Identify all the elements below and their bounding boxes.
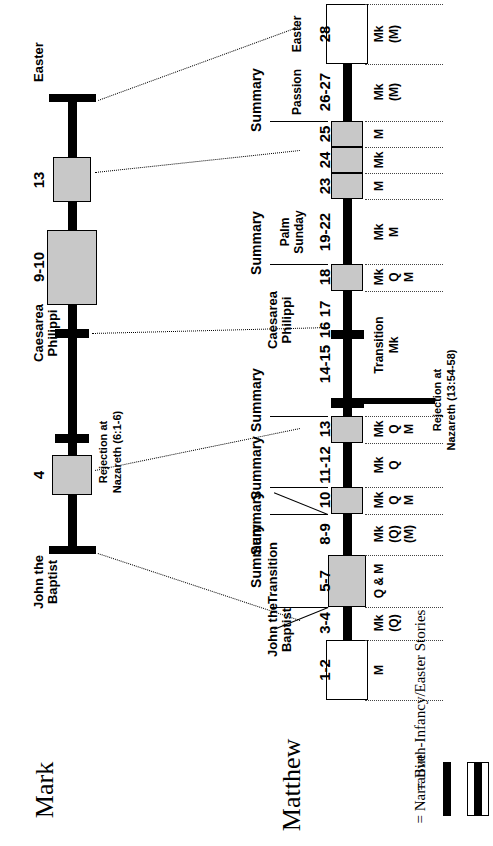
- connector-easter: [98, 26, 300, 101]
- mark-label-easter: Easter: [32, 42, 45, 82]
- matthew-chapter-label-19-22: 19-22: [317, 213, 332, 251]
- matthew-source-23-M: M: [373, 181, 385, 191]
- mark-label-john-the-baptist-line2: Baptist: [46, 560, 59, 604]
- matthew-summary-leader: [270, 607, 328, 608]
- matthew-source-19-22-Mk: Mk: [373, 224, 385, 241]
- mark-chapter-label-9-10: 9-10: [31, 252, 46, 282]
- matthew-row-divider: [365, 64, 443, 65]
- matthew-row-divider: [365, 700, 443, 701]
- matthew-label-palm-sunday-line1: Palm: [279, 218, 291, 247]
- matthew-box-chapter-18: [331, 264, 363, 291]
- matthew-source-8-9-(Q): (Q): [388, 525, 400, 542]
- matthew-row-divider: [365, 514, 443, 515]
- mark-label-john-the-baptist-line1: John the: [32, 555, 45, 609]
- matthew-source-8-9-Mk: Mk: [373, 526, 385, 543]
- matthew-row-divider: [365, 487, 443, 488]
- matthew-label-passion: Passion: [291, 69, 303, 115]
- mark-marker-rejection-at-nazareth: [55, 434, 89, 443]
- matthew-chapter-label-3-4: 3-4: [317, 612, 332, 634]
- connector-caesarea-philippi: [92, 327, 330, 334]
- matthew-title: Matthew: [279, 739, 305, 831]
- matthew-summary-leader: [270, 487, 328, 488]
- matthew-summary-leader: [270, 121, 328, 122]
- matthew-chapter-label-26-27: 26-27: [317, 73, 332, 111]
- matthew-source-10-Q: Q: [388, 495, 400, 504]
- legend-swatch-narrative: [443, 762, 451, 816]
- mark-chapter-label-13: 13: [31, 172, 46, 189]
- matthew-label-easter: Easter: [291, 16, 303, 53]
- matthew-chapter-label-24: 24: [317, 152, 332, 169]
- matthew-source-3-4-Mk: Mk: [373, 615, 385, 632]
- matthew-box-chapter-5-7: [328, 555, 366, 607]
- matthew-label-palm-sunday-line2: Sunday: [293, 210, 305, 253]
- mark-box-chapter-4: [52, 455, 92, 495]
- matthew-chapter-label-28: 28: [317, 26, 332, 43]
- matthew-summary-leader: [270, 514, 328, 515]
- mark-annotation-rejection-line1: Rejection at: [98, 421, 109, 483]
- connector-mark-13: [95, 150, 300, 173]
- connector-mark-4: [95, 428, 300, 471]
- matthew-source-26-27-Mk: Mk: [373, 84, 385, 101]
- matthew-row-divider: [365, 147, 443, 148]
- matthew-source-10-Mk: Mk: [373, 492, 385, 509]
- mark-chapter-label-4: 4: [31, 471, 46, 479]
- matthew-chapter-label-14-15: 14-15: [317, 345, 332, 383]
- matthew-label-caesarea-philippi-line1: Caesarea: [266, 291, 279, 349]
- matthew-source-3-4-(Q): (Q): [388, 614, 400, 631]
- legend-swatch-birth-infancy-bar: [474, 762, 482, 816]
- matthew-summary-label-1: Summary: [249, 68, 263, 132]
- matthew-row-divider: [365, 199, 443, 200]
- matthew-summary-leader: [270, 264, 328, 265]
- matthew-source-11-12-Q: Q: [388, 460, 400, 469]
- matthew-row-divider: [365, 640, 443, 641]
- matthew-source-13-M: M: [403, 424, 415, 434]
- mark-title: Mark: [32, 762, 58, 818]
- matthew-source-13-Q: Q: [388, 424, 400, 433]
- matthew-label-transition-1: Transition: [266, 542, 279, 604]
- matthew-box-chapter-23: [331, 173, 363, 199]
- matthew-label-transition-line1: Transition: [373, 316, 385, 373]
- mark-marker-caesarea-philippi: [55, 329, 89, 338]
- matthew-chapter-label-16: 16: [317, 322, 332, 339]
- mark-label-caesarea-philippi-line1: Caesarea: [32, 304, 45, 362]
- matthew-row-divider: [365, 607, 443, 608]
- matthew-source-13-Mk: Mk: [373, 421, 385, 438]
- matthew-source-1-2-M: M: [373, 665, 385, 675]
- matthew-source-24-Mk: Mk: [373, 152, 385, 169]
- mark-annotation-rejection-line2: Nazareth (6:1-6): [112, 411, 123, 494]
- matthew-source-25-M: M: [373, 129, 385, 139]
- legend-label-birth-infancy: = Birth-Infancy/Easter Stories: [413, 610, 428, 791]
- matthew-source-18-Mk: Mk: [373, 269, 385, 286]
- matthew-row-divider: [365, 121, 443, 122]
- matthew-row-divider: [365, 443, 443, 444]
- matthew-row-divider: [365, 264, 443, 265]
- matthew-marker-caesarea-philippi-transition: [331, 330, 364, 339]
- matthew-chapter-label-25: 25: [317, 126, 332, 143]
- matthew-source-5-7-Q & M: Q & M: [373, 564, 385, 599]
- matthew-label-transition-line2: Mk: [388, 337, 400, 354]
- matthew-chapter-label-8-9: 8-9: [317, 523, 332, 545]
- matthew-summary-label-2: Summary: [249, 211, 263, 275]
- mark-label-caesarea-philippi-line2: Philippi: [46, 310, 59, 357]
- matthew-source-10-M: M: [403, 495, 415, 505]
- mark-box-chapter-13: [53, 157, 91, 202]
- matthew-row-divider: [365, 291, 443, 292]
- matthew-row-divider: [365, 4, 443, 5]
- matthew-chapter-label-5-7: 5-7: [317, 570, 332, 592]
- matthew-chapter-label-18: 18: [317, 269, 332, 286]
- matthew-summary-label-6: Summary: [249, 524, 263, 588]
- matthew-annotation-rejection-line2: Nazareth (13:54-58): [446, 350, 457, 451]
- matthew-source-8-9-(M): (M): [403, 525, 415, 543]
- matthew-row-divider: [365, 555, 443, 556]
- matthew-source-28-(M): (M): [388, 25, 400, 43]
- matthew-chapter-label-23: 23: [317, 178, 332, 195]
- matthew-source-19-22-M: M: [388, 227, 400, 237]
- matthew-summary-leader: [270, 416, 328, 417]
- matthew-chapter-label-17: 17: [317, 301, 332, 318]
- mark-box-chapter-9-10: [47, 230, 97, 305]
- matthew-label-caesarea-philippi-line2: Philippi: [280, 297, 293, 344]
- matthew-box-chapter-25: [331, 121, 363, 147]
- matthew-chapter-label-11-12: 11-12: [317, 446, 332, 484]
- matthew-chapter-label-13: 13: [317, 421, 332, 438]
- matthew-box-chapter-13: [331, 416, 363, 443]
